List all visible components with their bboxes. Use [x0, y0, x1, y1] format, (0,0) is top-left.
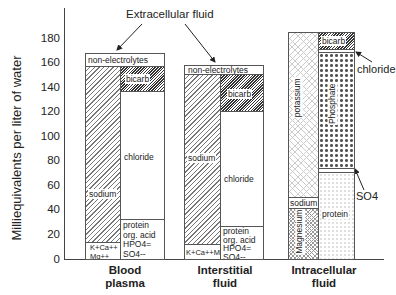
segment-sodium: sodium [85, 66, 121, 243]
category-blood-plasma: Blood plasma [80, 264, 170, 290]
segment-protein-group: protein org. acid HPO4= SO4-- [220, 226, 264, 260]
segment-k-ca-mg: K+Ca++ Mg++ [85, 242, 121, 260]
segment-sodium: sodium [184, 74, 221, 245]
segment-chloride: chloride [120, 91, 165, 220]
segment-protein: protein [318, 172, 355, 260]
segment-protein-group: protein org. acid HPO4= SO4-- [120, 219, 165, 260]
segment-non-electrolytes: non-electrolytes [85, 53, 165, 67]
chloride-annotation: chloride [357, 63, 396, 75]
so4-annotation: SO4 [356, 190, 378, 202]
segment-k-ca-mg: K+Ca++Mg++ [184, 244, 221, 260]
segment-phosphate: Phosphate [318, 52, 355, 169]
segment-magnesium: Magnesium [288, 208, 319, 260]
segment-bicarb: bicarb [220, 74, 264, 112]
segment-bicarb: bicarb [120, 66, 165, 92]
segment-chloride: chloride [220, 111, 264, 227]
category-intracellular-fluid: Intracellular fluid [279, 264, 369, 290]
segment-potassium: potassium [288, 32, 319, 198]
segment-bicarb: bicarb [318, 32, 355, 50]
category-interstitial-fluid: Interstitial fluid [180, 264, 270, 290]
